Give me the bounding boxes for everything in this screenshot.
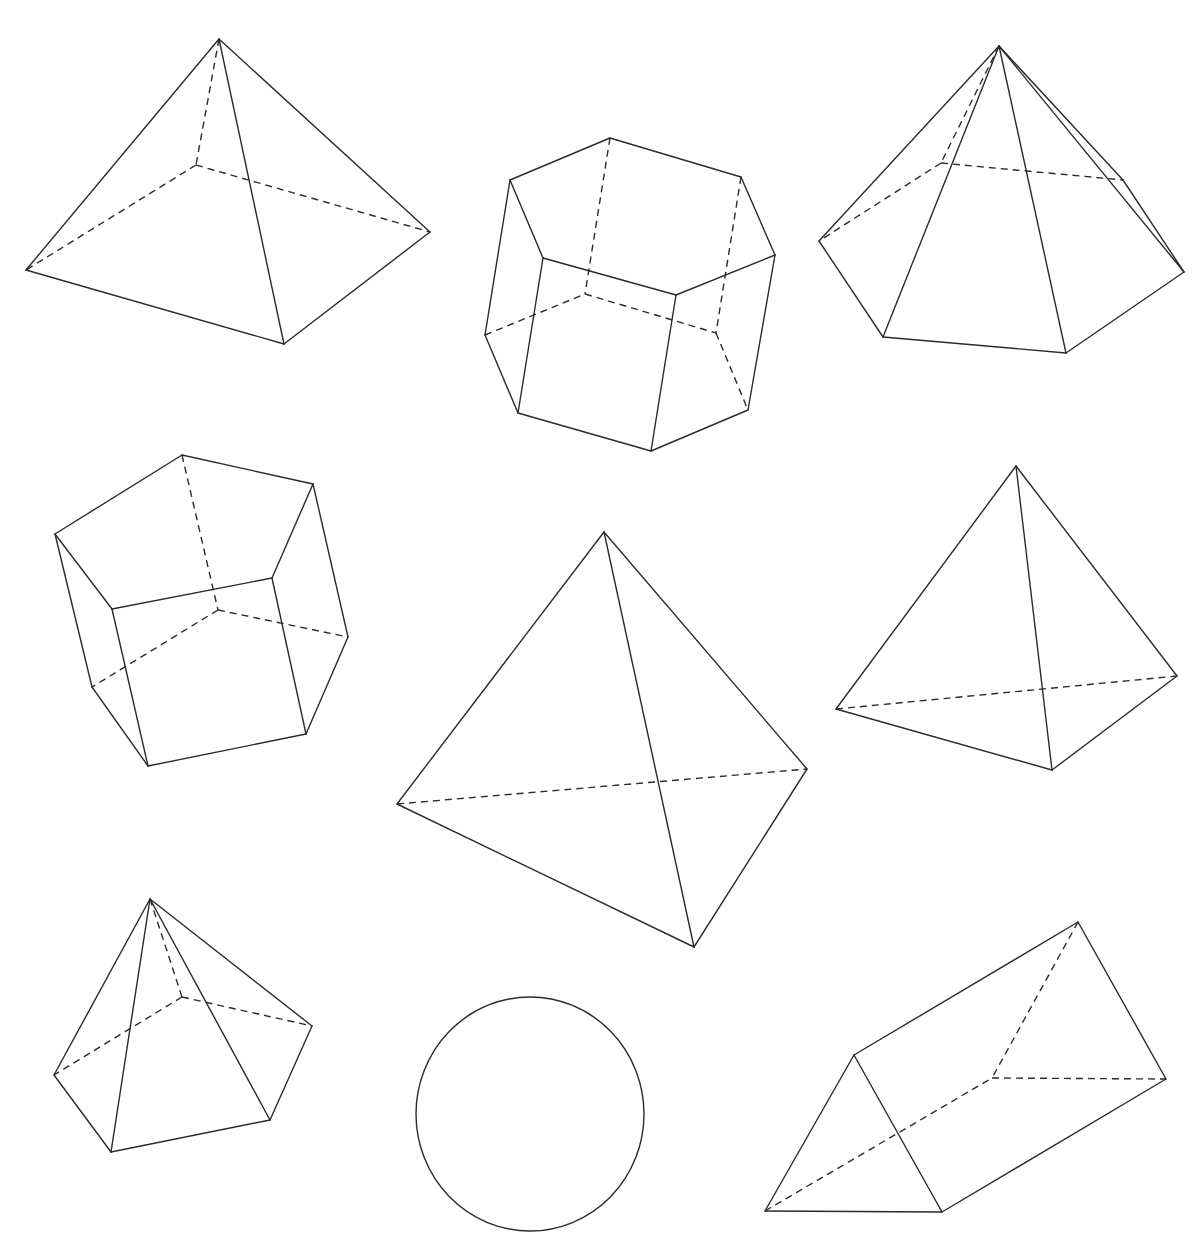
visible-edge <box>272 578 306 734</box>
visible-edge <box>883 46 999 337</box>
visible-edge <box>397 804 694 947</box>
visible-edge <box>883 337 1066 353</box>
pentagonal-pyramid-small <box>54 899 312 1152</box>
triangular-prism <box>765 922 1166 1212</box>
visible-edge <box>284 232 430 344</box>
visible-edge <box>111 899 150 1152</box>
visible-edge <box>1016 466 1052 770</box>
visible-edge <box>111 1120 270 1152</box>
visible-edge <box>510 180 543 258</box>
visible-edge <box>26 270 284 344</box>
tetrahedron-large <box>397 532 807 947</box>
hidden-edge <box>585 294 716 333</box>
hidden-edge <box>196 39 219 165</box>
hidden-edge <box>992 922 1078 1078</box>
pentagonal-pyramid-large <box>819 46 1184 353</box>
visible-edge <box>518 258 543 413</box>
visible-edge <box>510 138 610 180</box>
hidden-edge <box>196 165 430 232</box>
visible-edge <box>1016 466 1177 676</box>
visible-edge <box>604 532 694 947</box>
square-pyramid <box>26 39 430 344</box>
visible-edge <box>485 180 510 335</box>
tetrahedron-right <box>836 466 1177 770</box>
visible-edge <box>942 1079 1166 1212</box>
visible-edge <box>54 1075 111 1152</box>
visible-edge <box>150 899 312 1026</box>
sphere <box>416 997 644 1231</box>
hidden-edge <box>716 177 741 333</box>
hidden-edge <box>182 455 218 610</box>
visible-edge <box>1078 922 1166 1079</box>
visible-edge <box>694 769 807 947</box>
pentagonal-prism <box>55 455 348 766</box>
visible-edge <box>1123 180 1184 272</box>
visible-edge <box>854 1055 942 1212</box>
hidden-edge <box>485 294 585 335</box>
visible-edge <box>112 609 148 766</box>
visible-edge <box>313 484 348 637</box>
visible-edge <box>741 177 775 255</box>
visible-edge <box>610 138 741 177</box>
visible-edge <box>854 922 1078 1055</box>
visible-edge <box>270 1026 312 1120</box>
visible-edge <box>543 258 676 295</box>
visible-edge <box>485 335 518 413</box>
visible-edge <box>748 255 775 410</box>
hexagonal-prism <box>485 138 775 451</box>
visible-edge <box>999 46 1123 180</box>
geometric-solids-figure <box>0 0 1196 1258</box>
visible-edge <box>306 637 348 734</box>
visible-edge <box>1052 676 1177 770</box>
visible-edge <box>836 466 1016 709</box>
visible-edge <box>651 295 676 451</box>
visible-edge <box>819 46 999 241</box>
hidden-edge <box>992 1078 1166 1079</box>
hidden-edge <box>716 333 748 410</box>
visible-edge <box>676 255 775 295</box>
visible-edge <box>999 46 1066 353</box>
circle-outline <box>416 997 644 1231</box>
visible-edge <box>651 410 748 451</box>
visible-edge <box>219 39 284 344</box>
visible-edge <box>819 241 883 337</box>
visible-edge <box>26 39 219 270</box>
visible-edge <box>397 532 604 804</box>
visible-edge <box>182 455 313 484</box>
hidden-edge <box>54 997 182 1075</box>
visible-edge <box>55 534 92 687</box>
visible-edge <box>765 1211 942 1212</box>
visible-edge <box>836 709 1052 770</box>
visible-edge <box>604 532 807 769</box>
visible-edge <box>55 455 182 534</box>
visible-edge <box>148 734 306 766</box>
hidden-edge <box>397 769 807 804</box>
visible-edge <box>765 1055 854 1211</box>
visible-edge <box>54 899 150 1075</box>
hidden-edge <box>92 610 218 687</box>
visible-edge <box>150 899 270 1120</box>
visible-edge <box>999 46 1184 272</box>
visible-edge <box>112 578 272 609</box>
hidden-edge <box>218 610 348 637</box>
hidden-edge <box>941 46 999 163</box>
visible-edge <box>272 484 313 578</box>
visible-edge <box>219 39 430 232</box>
hidden-edge <box>836 676 1177 709</box>
visible-edge <box>1066 272 1184 353</box>
hidden-edge <box>941 163 1123 180</box>
hidden-edge <box>26 165 196 270</box>
visible-edge <box>518 413 651 451</box>
